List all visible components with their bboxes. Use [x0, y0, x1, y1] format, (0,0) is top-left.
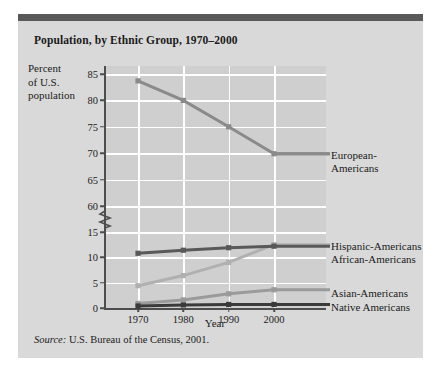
y-axis-tick-label: 80 — [74, 95, 98, 106]
x-axis-title: Year — [104, 317, 326, 329]
series-marker — [226, 124, 231, 129]
series-marker — [181, 302, 186, 307]
series-marker — [181, 98, 186, 103]
y-axis-tick-label: 65 — [74, 174, 98, 185]
source-value: U.S. Bureau of the Census, 2001. — [66, 334, 209, 345]
y-axis-tick-label: 85 — [74, 69, 98, 80]
series-lines — [104, 66, 326, 310]
top-accent-bar — [18, 14, 423, 21]
series-marker — [181, 273, 186, 278]
series-marker — [135, 283, 140, 288]
y-axis-tick-label: 75 — [74, 121, 98, 132]
y-axis-tick-label: 70 — [74, 148, 98, 159]
plot-area: 6065707580850510151970198019902000 — [104, 66, 326, 310]
series-line — [138, 290, 274, 304]
series-label-european-americans: European- Americans — [331, 149, 379, 174]
y-axis-tick-label: 10 — [74, 252, 98, 263]
series-marker — [226, 245, 231, 250]
series-marker — [135, 303, 140, 308]
axis-break-icon — [97, 206, 113, 232]
series-marker — [181, 248, 186, 253]
series-marker — [226, 260, 231, 265]
series-line — [138, 81, 274, 154]
series-marker — [135, 251, 140, 256]
chart-title: Population, by Ethnic Group, 1970–2000 — [34, 34, 238, 46]
y-axis-tick-label: 60 — [74, 201, 98, 212]
y-axis-tick-label: 0 — [74, 303, 98, 314]
y-axis-tick-label: 5 — [74, 277, 98, 288]
series-label-hispanic-americans: Hispanic-Americans — [331, 240, 421, 253]
y-axis-tick-label: 15 — [74, 227, 98, 238]
series-label-african-americans: African-Americans — [331, 253, 416, 266]
series-marker — [226, 291, 231, 296]
source-note: Source: U.S. Bureau of the Census, 2001. — [34, 334, 209, 345]
series-label-european-line-2: Americans — [331, 162, 379, 175]
series-label-asian-americans: Asian-Americans — [331, 287, 408, 300]
series-label-native-americans: Native Americans — [331, 301, 410, 314]
series-label-european-line-1: European- — [331, 149, 379, 162]
chart-card: Population, by Ethnic Group, 1970–2000 P… — [18, 14, 423, 358]
series-marker — [181, 297, 186, 302]
source-label: Source: — [34, 334, 66, 345]
series-marker — [226, 302, 231, 307]
series-marker — [135, 78, 140, 83]
series-line — [138, 304, 274, 306]
